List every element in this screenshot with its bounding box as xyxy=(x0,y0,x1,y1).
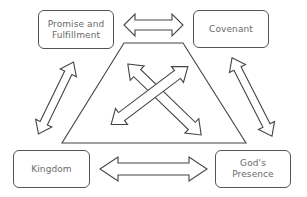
arrow-promise-covenant xyxy=(124,14,183,36)
node-kingdom: Kingdom xyxy=(13,150,90,188)
node-label: Covenant xyxy=(209,24,253,35)
node-covenant: Covenant xyxy=(193,10,269,48)
arrow-kingdom-presence xyxy=(100,157,207,181)
node-gods-presence: God's Presence xyxy=(215,150,291,188)
node-label: Promise and Fulfillment xyxy=(48,19,105,41)
node-label: Kingdom xyxy=(31,164,72,175)
node-label: God's Presence xyxy=(232,158,274,180)
node-promise-and-fulfillment: Promise and Fulfillment xyxy=(38,10,114,49)
